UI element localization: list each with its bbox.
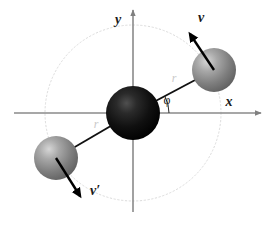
velocity-v-label: v (198, 10, 205, 25)
bond-lower-left-label: r (94, 117, 99, 131)
phi-angle-label: φ (164, 93, 171, 107)
y-axis-label: y (113, 12, 122, 27)
center-atom (106, 86, 160, 140)
diagram-canvas: y x v v′ r r φ (0, 0, 273, 229)
bond-upper-right-label: r (172, 71, 177, 85)
velocity-v-prime-label: v′ (90, 183, 100, 198)
x-axis-label: x (225, 94, 233, 109)
physics-diagram-figure: y x v v′ r r φ (0, 0, 273, 229)
